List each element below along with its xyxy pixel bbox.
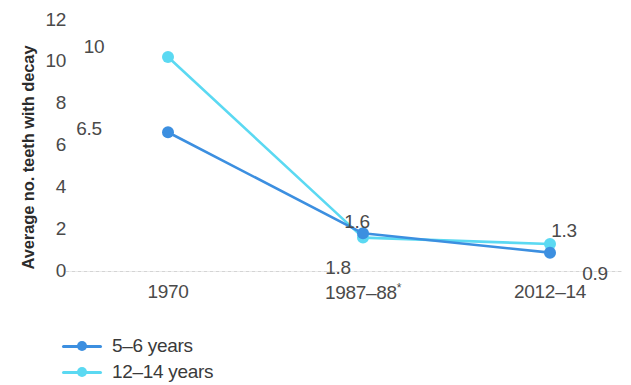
point-label-12-14-1970: 10 (84, 36, 105, 58)
point-label-5-6-1987: 1.8 (325, 257, 351, 279)
data-point-5-6-1970 (162, 126, 174, 138)
legend-label-5-6-years: 5–6 years (112, 335, 193, 357)
data-point-5-6-2012-14 (544, 247, 556, 259)
legend-item-5-6-years[interactable]: 5–6 years (62, 333, 213, 359)
y-tick-12: 12 (30, 9, 66, 31)
point-label-12-14-1987: 1.6 (344, 211, 370, 233)
x-tick-1987-88-text: 1987–88 (325, 282, 397, 303)
legend-label-12-14-years: 12–14 years (112, 361, 213, 383)
legend-item-12-14-years[interactable]: 12–14 years (62, 359, 213, 385)
y-tick-10: 10 (30, 50, 66, 72)
y-tick-8: 8 (30, 92, 66, 114)
legend-marker-12-14-icon (62, 365, 102, 379)
data-point-12-14-1970 (162, 51, 174, 63)
x-axis-tick-labels: 1970 1987–88* 2012–14 (72, 281, 620, 311)
y-axis-tick-labels: 12 10 8 6 4 2 0 (30, 0, 66, 290)
x-tick-asterisk: * (397, 281, 401, 295)
y-tick-0: 0 (30, 260, 66, 282)
point-label-5-6-1970: 6.5 (76, 118, 102, 140)
x-tick-1987-88: 1987–88* (325, 281, 401, 304)
point-label-12-14-2012: 1.3 (551, 220, 577, 242)
x-tick-2012-14: 2012–14 (514, 281, 586, 303)
series-lines (72, 14, 620, 272)
x-tick-1970: 1970 (147, 281, 188, 303)
chart-legend: 5–6 years 12–14 years (62, 333, 213, 385)
legend-marker-5-6-icon (62, 339, 102, 353)
y-tick-4: 4 (30, 176, 66, 198)
y-tick-2: 2 (30, 218, 66, 240)
y-tick-6: 6 (30, 134, 66, 156)
plot-area: 10 6.5 1.6 1.8 1.3 0.9 (72, 14, 620, 272)
